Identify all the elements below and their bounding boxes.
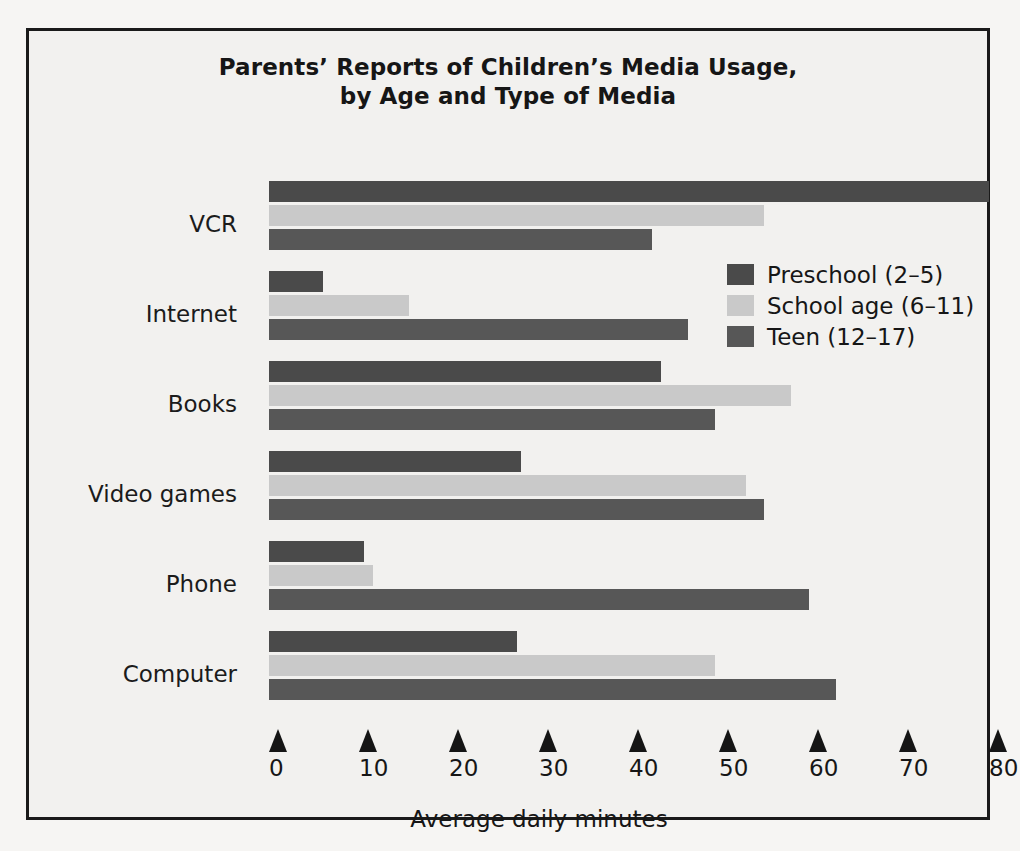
bar <box>269 181 989 202</box>
bar <box>269 451 521 472</box>
bar-group: Phone <box>269 539 989 629</box>
bar <box>269 499 764 520</box>
bar <box>269 475 746 496</box>
bar <box>269 679 836 700</box>
chart-title: Parents’ Reports of Children’s Media Usa… <box>29 53 987 112</box>
bar <box>269 565 373 586</box>
bar <box>269 205 764 226</box>
bar-group: VCR <box>269 179 989 269</box>
category-label: VCR <box>189 179 237 269</box>
bar-group: Books <box>269 359 989 449</box>
category-label: Computer <box>123 629 237 719</box>
category-label: Video games <box>88 449 237 539</box>
chart-frame: Parents’ Reports of Children’s Media Usa… <box>26 28 990 820</box>
chart-figure: Parents’ Reports of Children’s Media Usa… <box>0 0 1020 851</box>
bar <box>269 385 791 406</box>
tick-marker-icon <box>899 729 917 752</box>
tick-marker-icon <box>989 729 1007 752</box>
tick-marker-icon <box>719 729 737 752</box>
tick-marker-icon <box>809 729 827 752</box>
bar-group: Video games <box>269 449 989 539</box>
tick-marker-icon <box>269 729 287 752</box>
bar <box>269 409 715 430</box>
chart-title-line-2: by Age and Type of Media <box>29 82 987 111</box>
plot-area: VCRInternetBooksVideo gamesPhoneComputer <box>269 179 989 719</box>
tick-marker-icon <box>539 729 557 752</box>
bar <box>269 631 517 652</box>
tick-marker-icon <box>359 729 377 752</box>
bar <box>269 229 652 250</box>
x-axis: 01020304050607080 <box>269 729 989 789</box>
bar <box>269 541 364 562</box>
bar <box>269 589 809 610</box>
x-axis-title: Average daily minutes <box>29 806 1020 832</box>
chart-title-line-1: Parents’ Reports of Children’s Media Usa… <box>29 53 987 82</box>
tick-marker-icon <box>449 729 467 752</box>
bar-group: Computer <box>269 629 989 719</box>
bar <box>269 295 409 316</box>
category-label: Books <box>168 359 237 449</box>
category-label: Phone <box>166 539 237 629</box>
bar <box>269 271 323 292</box>
bar <box>269 361 661 382</box>
bar-group: Internet <box>269 269 989 359</box>
category-label: Internet <box>146 269 237 359</box>
bar <box>269 655 715 676</box>
tick-marker-icon <box>629 729 647 752</box>
bar <box>269 319 688 340</box>
